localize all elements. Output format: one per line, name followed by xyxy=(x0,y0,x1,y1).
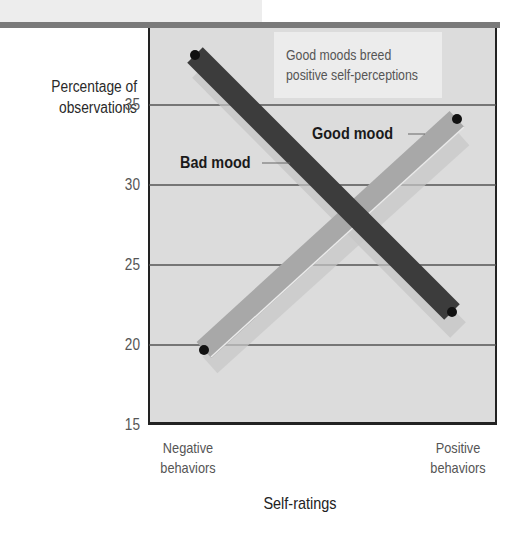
x-axis-label: Self-ratings xyxy=(249,494,351,514)
x-category-negative-line-1: Negative xyxy=(154,438,222,458)
y-tick-25: 25 xyxy=(113,256,140,274)
y-axis-label-line-1: Percentage of xyxy=(19,76,137,97)
x-category-positive-line-2: behaviors xyxy=(424,458,492,478)
bad-mood-point-negative xyxy=(190,50,200,60)
x-category-negative-line-2: behaviors xyxy=(154,458,222,478)
bad-mood-label: Bad mood xyxy=(180,153,251,173)
annotation-line-2: positive self-perceptions xyxy=(286,66,418,83)
x-category-positive-line-1: Positive xyxy=(424,438,492,458)
good-mood-point-negative xyxy=(199,345,209,355)
bad-mood-point-positive xyxy=(447,307,457,317)
annotation-box: Good moods breed positive self-perceptio… xyxy=(274,32,442,98)
good-mood-point-positive xyxy=(452,114,462,124)
annotation-line-1: Good moods breed xyxy=(286,46,391,63)
y-tick-30: 30 xyxy=(113,176,140,194)
y-tick-35: 35 xyxy=(113,96,140,114)
good-mood-label: Good mood xyxy=(312,124,393,144)
y-tick-20: 20 xyxy=(113,336,140,354)
x-category-positive: Positive behaviors xyxy=(424,438,492,478)
x-category-negative: Negative behaviors xyxy=(154,438,222,478)
y-tick-15: 15 xyxy=(113,416,140,434)
